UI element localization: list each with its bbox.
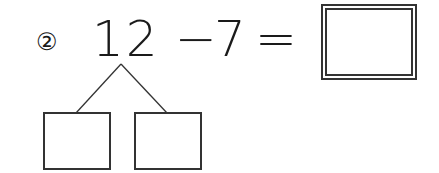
decomposition-box-left[interactable]	[43, 112, 111, 170]
decomposition-box-right[interactable]	[134, 112, 202, 170]
